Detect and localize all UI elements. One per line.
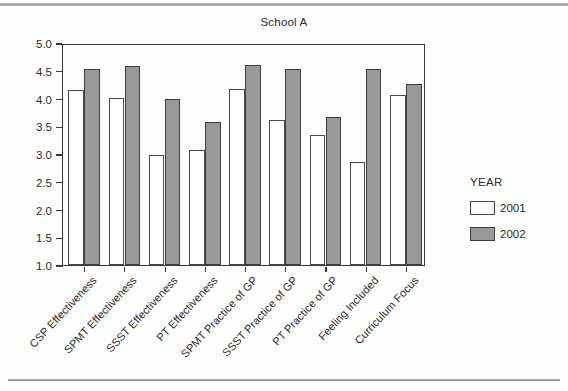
bar-2002-8[interactable] xyxy=(406,84,422,265)
bar-2002-0[interactable] xyxy=(84,69,100,265)
plot-area xyxy=(63,44,425,266)
legend-title: YEAR xyxy=(470,176,562,188)
y-tick-label: 4.5 xyxy=(18,66,52,78)
chart-figure: School A 5.04.54.03.53.02.52.01.51.0 CSP… xyxy=(0,0,568,391)
x-tick xyxy=(205,267,206,272)
x-axis-label-2: SSST Effectiveness xyxy=(103,274,179,354)
bar-2001-6[interactable] xyxy=(310,135,326,265)
bar-2001-5[interactable] xyxy=(269,120,285,265)
x-tick xyxy=(245,267,246,272)
page-rule-top xyxy=(0,3,568,6)
chart-title: School A xyxy=(0,16,568,28)
y-tick-label: 3.0 xyxy=(18,149,52,161)
page-rule-bottom xyxy=(8,379,560,381)
bar-2002-3[interactable] xyxy=(205,122,221,265)
y-tick xyxy=(56,99,62,100)
legend-swatch-2002 xyxy=(470,227,495,241)
y-tick-label: 1.5 xyxy=(18,232,52,244)
x-axis-label-5: SSST Practice of GP xyxy=(220,274,300,359)
y-tick-label: 2.0 xyxy=(18,205,52,217)
bar-2001-1[interactable] xyxy=(109,98,125,265)
y-tick xyxy=(56,71,62,72)
legend-label-2001: 2001 xyxy=(500,202,526,214)
bar-2002-7[interactable] xyxy=(366,69,382,265)
x-tick xyxy=(84,267,85,272)
legend-item-2002[interactable]: 2002 xyxy=(470,227,562,241)
bar-2002-2[interactable] xyxy=(165,99,181,266)
bar-2001-7[interactable] xyxy=(350,162,366,265)
x-tick xyxy=(165,267,166,272)
y-tick xyxy=(56,265,62,266)
bar-2001-0[interactable] xyxy=(68,90,84,265)
bar-2002-4[interactable] xyxy=(245,65,261,265)
x-axis-label-1: SPMT Effectiveness xyxy=(62,274,139,356)
legend-label-2002: 2002 xyxy=(500,228,526,240)
y-tick xyxy=(56,127,62,128)
legend: YEAR 2001 2002 xyxy=(470,176,562,253)
x-axis-label-0: CSP Effectiveness xyxy=(27,274,99,350)
bar-2001-2[interactable] xyxy=(149,155,165,265)
y-tick xyxy=(56,182,62,183)
y-tick-label: 4.0 xyxy=(18,94,52,106)
bar-2002-6[interactable] xyxy=(326,117,342,265)
legend-item-2001[interactable]: 2001 xyxy=(470,201,562,215)
y-tick xyxy=(56,210,62,211)
y-tick-label: 2.5 xyxy=(18,177,52,189)
bar-2002-5[interactable] xyxy=(285,69,301,265)
x-tick xyxy=(366,267,367,272)
bar-2001-8[interactable] xyxy=(390,95,406,265)
x-axis-label-4: SPMT Practice of GP xyxy=(179,274,260,360)
x-tick xyxy=(325,267,326,272)
y-tick xyxy=(56,154,62,155)
x-tick xyxy=(406,267,407,272)
bar-2001-4[interactable] xyxy=(229,89,245,265)
y-tick-label: 3.5 xyxy=(18,121,52,133)
y-tick xyxy=(56,238,62,239)
bar-2002-1[interactable] xyxy=(125,66,141,265)
x-tick xyxy=(285,267,286,272)
y-tick-label: 1.0 xyxy=(18,260,52,272)
x-tick xyxy=(124,267,125,272)
bar-2001-3[interactable] xyxy=(189,150,205,265)
y-tick-label: 5.0 xyxy=(18,38,52,50)
legend-swatch-2001 xyxy=(470,201,495,215)
y-tick xyxy=(56,43,62,44)
